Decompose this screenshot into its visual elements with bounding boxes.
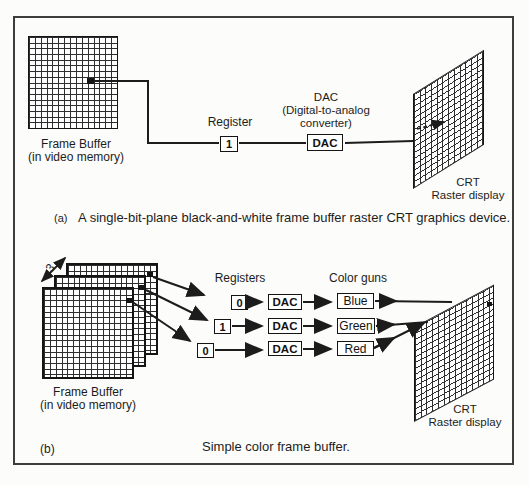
dac-box-blue: DAC (268, 294, 302, 310)
frame-buffer-grid-a (28, 36, 118, 129)
frame-buffer-label-a-line2: (in video memory) (20, 151, 132, 164)
gun-box-green: Green (337, 318, 375, 334)
dac-caption-a-line2: (Digital-to-analog (280, 104, 372, 117)
caption-a-text: A single-bit-plane black-and-white frame… (78, 210, 510, 225)
bit-plane-grid-front (42, 287, 134, 379)
register-box-red: 0 (197, 343, 214, 358)
dac-box-a: DAC (307, 134, 343, 151)
crt-label-a: CRT Raster display (424, 176, 512, 202)
gun-box-red: Red (337, 341, 374, 356)
dac-box-red: DAC (268, 341, 302, 356)
crt-label-b-line2: Raster display (420, 416, 510, 429)
register-box-a: 1 (220, 136, 238, 152)
register-box-blue: 0 (231, 295, 248, 310)
frame-buffer-label-b: Frame Buffer (in video memory) (32, 386, 144, 412)
frame-buffer-label-b-line2: (in video memory) (32, 399, 144, 412)
dac-caption-a-line3: converter) (280, 117, 372, 130)
crt-label-b-line1: CRT (420, 403, 510, 416)
register-value-a: 1 (226, 138, 232, 150)
dac-caption-a-line1: DAC (280, 91, 372, 104)
registers-label: Registers (212, 272, 268, 285)
textbook-figure: Frame Buffer (in video memory) Register … (0, 0, 529, 485)
crt-label-a-line2: Raster display (424, 189, 512, 202)
dac-caption-a: DAC (Digital-to-analog converter) (280, 91, 372, 130)
caption-a-tag: (a) (54, 212, 67, 224)
register-box-green: 1 (214, 319, 231, 334)
gun-box-blue: Blue (337, 293, 374, 309)
crt-label-b: CRT Raster display (420, 403, 510, 429)
color-guns-label: Color guns (327, 272, 389, 285)
crt-label-a-line1: CRT (424, 176, 512, 189)
register-label-a: Register (206, 116, 254, 129)
caption-b-tag: (b) (40, 442, 55, 456)
caption-a: (a) A single-bit-plane black-and-white f… (54, 210, 510, 225)
frame-buffer-label-a: Frame Buffer (in video memory) (20, 138, 132, 164)
dac-box-green: DAC (268, 318, 302, 334)
caption-b-text: Simple color frame buffer. (202, 439, 350, 454)
